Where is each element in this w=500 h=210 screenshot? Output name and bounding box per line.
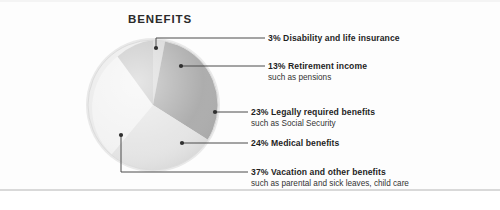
benefits-pie-figure: BENEFITS 3% Disability and life insuranc… (0, 0, 500, 210)
callout-legally-required: 23% Legally required benefits such as So… (251, 107, 375, 129)
callout-headline: 24% Medical benefits (251, 138, 339, 149)
page-title: BENEFITS (128, 13, 192, 25)
top-divider (0, 0, 500, 2)
callout-leader-lines (0, 0, 500, 210)
bottom-margin (0, 191, 500, 210)
callout-headline: 13% Retirement income (268, 61, 367, 72)
callout-disability: 3% Disability and life insurance (268, 33, 400, 44)
callout-sublabel: such as Social Security (251, 118, 375, 129)
callout-headline: 23% Legally required benefits (251, 107, 375, 118)
pie-shading-overlay (88, 40, 218, 170)
callout-medical: 24% Medical benefits (251, 138, 339, 149)
callout-sublabel: such as pensions (268, 72, 367, 83)
callout-headline: 3% Disability and life insurance (268, 33, 400, 44)
pie-chart (84, 32, 224, 178)
callout-vacation: 37% Vacation and other benefits such as … (251, 167, 409, 189)
callout-headline: 37% Vacation and other benefits (251, 167, 409, 178)
callout-sublabel: such as parental and sick leaves, child … (251, 178, 409, 189)
callout-retirement: 13% Retirement income such as pensions (268, 61, 367, 83)
